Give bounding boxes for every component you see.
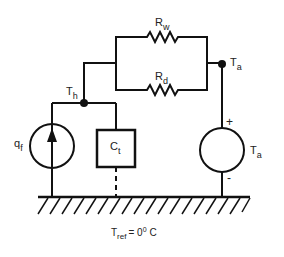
label-rd: Rd <box>155 70 168 86</box>
node-ta <box>218 60 226 68</box>
label-ct: Ct <box>110 140 121 156</box>
parallel-resistor-network <box>116 32 207 95</box>
label-ta-source: Ta <box>250 144 262 160</box>
label-rw: Rw <box>155 16 170 32</box>
label-plus: + <box>226 115 233 129</box>
ambient-source-circle <box>200 128 244 172</box>
label-th: Th <box>66 85 78 101</box>
thermal-circuit-diagram: Rw Rd Th Ta qf Ct Ta + - Tref= 00C <box>0 0 284 257</box>
heat-source-arrow-icon <box>47 128 57 142</box>
label-tref: Tref= 00C <box>111 226 157 241</box>
node-th <box>80 99 88 107</box>
label-minus: - <box>227 171 231 185</box>
resistor-rw <box>116 32 207 63</box>
wire-th-to-network <box>84 63 116 103</box>
label-qf: qf <box>14 137 23 153</box>
ground-hatch <box>38 198 250 214</box>
label-ta-node: Ta <box>230 56 242 72</box>
